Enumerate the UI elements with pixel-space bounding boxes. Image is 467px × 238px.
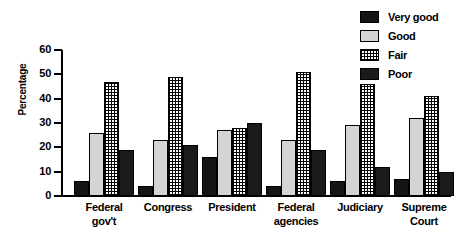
bar [168, 77, 183, 196]
bar [153, 140, 168, 196]
bar [409, 118, 424, 196]
bar [345, 125, 360, 196]
bar [74, 181, 89, 196]
bar-group [202, 50, 262, 196]
legend-label-poor: Poor [388, 68, 412, 80]
bar-group [266, 50, 326, 196]
bar [217, 130, 232, 196]
y-tick-mark [54, 195, 62, 197]
legend-label-good: Good [388, 30, 416, 42]
y-tick-label: 30 [20, 117, 51, 128]
legend-swatch-poor-icon [360, 68, 379, 80]
y-tick-mark [54, 122, 62, 124]
bar [247, 123, 262, 196]
bar [375, 167, 390, 196]
y-tick-mark [54, 146, 62, 148]
bar [202, 157, 217, 196]
y-tick-mark [54, 171, 62, 173]
bar [311, 150, 326, 196]
y-tick-label: 40 [20, 93, 51, 104]
legend-item-very-good: Very good [360, 8, 464, 25]
bar [138, 186, 153, 196]
y-tick-mark [54, 73, 62, 75]
bar [360, 84, 375, 196]
y-tick-label: 20 [20, 141, 51, 152]
bar [424, 96, 439, 196]
legend-item-good: Good [360, 27, 464, 44]
y-tick-label: 0 [20, 190, 51, 201]
bar [266, 186, 281, 196]
y-tick-mark [54, 49, 62, 51]
legend-swatch-very-good-icon [360, 11, 379, 23]
bar [119, 150, 134, 196]
bar [281, 140, 296, 196]
bar-chart: Percentage 0102030405060 Federalgov'tCon… [0, 0, 467, 238]
chart-legend: Very good Good Fair Poor [360, 8, 464, 84]
x-axis-label: SupremeCourt [384, 200, 464, 228]
bar [439, 172, 454, 196]
legend-label-very-good: Very good [388, 11, 438, 23]
bar [183, 145, 198, 196]
bar [296, 72, 311, 196]
y-tick-label: 10 [20, 166, 51, 177]
y-tick-label: 60 [20, 44, 51, 55]
legend-label-fair: Fair [388, 49, 407, 61]
bar-group [138, 50, 198, 196]
bar [89, 133, 104, 196]
bar-group [74, 50, 134, 196]
legend-item-poor: Poor [360, 65, 464, 82]
legend-swatch-fair-icon [360, 49, 379, 61]
legend-item-fair: Fair [360, 46, 464, 63]
bar [330, 181, 345, 196]
y-tick-mark [54, 98, 62, 100]
legend-swatch-good-icon [360, 30, 379, 42]
bar [232, 128, 247, 196]
bar [104, 82, 119, 196]
y-tick-label: 50 [20, 68, 51, 79]
bar [394, 179, 409, 196]
